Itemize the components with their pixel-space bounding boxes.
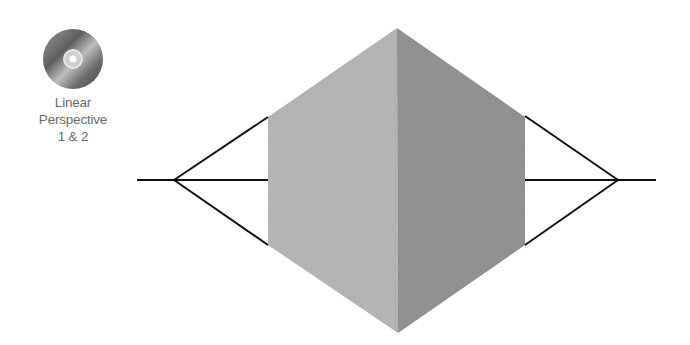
right-vanishing-line-top (525, 116, 618, 180)
left-vanishing-point (173, 179, 175, 181)
cube-left-face (268, 28, 398, 333)
cube-right-face (397, 28, 525, 333)
right-vanishing-point (617, 179, 619, 181)
right-vanishing-line-bottom (525, 180, 618, 245)
left-vanishing-line-top (174, 117, 268, 180)
left-vanishing-line-bottom (174, 180, 268, 245)
perspective-diagram (0, 0, 690, 345)
